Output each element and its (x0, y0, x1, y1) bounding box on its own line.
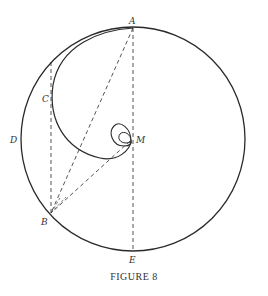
dashed-line-M-B (51, 141, 130, 213)
label-C: C (42, 94, 49, 104)
label-M: M (135, 135, 146, 145)
label-A: A (128, 16, 136, 26)
figure-caption: FIGURE 8 (110, 271, 158, 282)
label-E: E (128, 255, 136, 265)
label-B: B (40, 217, 48, 227)
label-D: D (9, 135, 17, 145)
figure-8-diagram: A B C D E M FIGURE 8 (0, 0, 268, 296)
dashed-line-B-ray2 (51, 198, 60, 213)
dashed-line-A-B (51, 28, 133, 213)
dashed-line-B-ray (51, 197, 66, 213)
spiral-curve (52, 28, 133, 159)
